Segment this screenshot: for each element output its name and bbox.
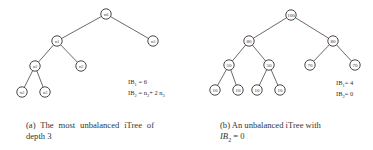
caption-b-text: (b) An unbalanced iTree with [220,120,321,130]
node-label: 10 [213,88,219,93]
node-label: 10 [278,88,284,93]
node-label: n3 [79,64,84,70]
tree-b-node: 50 [264,60,274,70]
node-label: n3 [151,39,156,45]
tree-a-node: n3 [148,36,158,46]
node-label: n1 [55,39,60,45]
tree-a-node: n2 [30,61,40,71]
ib1-label-b: IB1= 4 [336,79,354,88]
tree-b-edge [253,18,286,39]
tree-b-edge [259,70,266,86]
node-label: n3 [43,90,48,96]
tree-b-node: 10 [233,85,243,95]
tree-a-node: n3 [17,87,27,97]
caption-b-math-rest: = 0 [231,131,244,141]
tree-b-node: 70 [350,60,360,70]
node-label: 50 [227,63,233,68]
tree-b-node: 50 [224,60,234,70]
tree-a-node: n1 [52,36,62,46]
tree-b-edge [337,45,352,61]
node-label: n3 [20,90,25,96]
tree-b-edge [252,45,265,61]
ib2-label-a: IB2 = n2+ 2 n3 [128,89,166,98]
tree-a-edge [62,17,102,39]
tree-b-node: 10 [210,85,220,95]
ib1-label-a: IB1 = 6 [128,78,148,87]
tree-a-edges [24,17,148,88]
tree-b-node: 80 [244,36,254,46]
tree-b-node: 10 [252,85,262,95]
tree-a-edge [24,71,32,88]
node-label: 70 [353,63,359,68]
node-label: 80 [247,39,253,44]
tree-b-edge [271,70,278,85]
tree-b-edge [231,70,236,85]
tree-b-edge [295,18,328,39]
tree-b-node: 100 [286,10,296,20]
caption-b: (b) An unbalanced iTree with IB2 = 0 [220,120,360,146]
node-label: 10 [255,88,261,93]
tree-a-edge [61,45,78,62]
tree-a-edge [38,45,53,62]
tree-b-edge [218,70,227,86]
tree-b-node: 70 [305,60,315,70]
tree-a-node: n3 [40,87,50,97]
node-label: 100 [287,13,295,18]
tree-a-edge [37,71,43,87]
node-label: 10 [236,88,242,93]
node-label: n0 [104,12,109,18]
node-label: n2 [33,64,38,70]
node-label: 80 [331,39,337,44]
tree-a-edge [111,17,149,39]
tree-b-node: 80 [328,36,338,46]
tree-a-node: n0 [101,9,111,19]
node-label: 50 [267,63,273,68]
node-label: 70 [308,63,314,68]
tree-b-node: 10 [275,85,285,95]
caption-a: (a) The most unbalanced iTree of depth 3 [26,120,154,142]
ib2-label-b: IB2= 0 [336,90,353,99]
tree-a-node: n3 [76,61,86,71]
tree-b-edges [218,18,352,86]
caption-b-math: IB [220,131,228,141]
tree-b-edge [232,45,245,61]
tree-b-edge [314,45,330,61]
